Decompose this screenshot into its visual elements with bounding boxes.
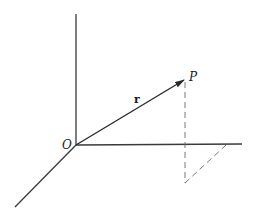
- position-vector-diagram: O P r: [0, 0, 255, 217]
- origin-label: O: [62, 138, 72, 152]
- y-axis: [76, 144, 242, 145]
- position-vector-r: [76, 80, 184, 145]
- point-p-label: P: [188, 70, 198, 84]
- vector-r-label: r: [134, 93, 140, 106]
- x-axis: [15, 145, 76, 207]
- horizontal-projection-line: [185, 145, 226, 183]
